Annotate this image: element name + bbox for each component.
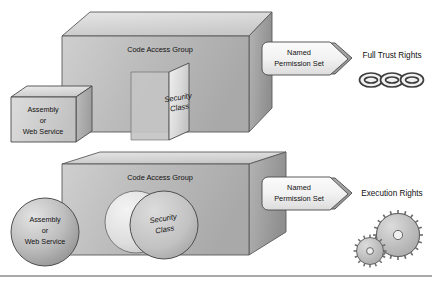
assembly-sphere-line-2: or	[42, 226, 49, 235]
named-permission-set-line-1-top: Named	[287, 48, 311, 57]
full-trust-row: Code Access Group Security Class Assembl…	[11, 12, 424, 142]
chain-icon	[360, 73, 424, 87]
code-access-group-label-bottom: Code Access Group	[127, 173, 193, 182]
assembly-cube-line-1: Assembly	[27, 105, 59, 114]
named-permission-set-arrow-top: Named Permission Set	[262, 42, 352, 75]
full-trust-rights-label: Full Trust Rights	[362, 51, 421, 60]
assembly-cube-line-2: or	[40, 116, 47, 125]
security-class-panel: Security Class	[131, 63, 195, 140]
assembly-cube-line-3: Web Service	[23, 127, 64, 136]
diagram-svg: Code Access Group Security Class Assembl…	[0, 0, 432, 283]
named-permission-set-line-1-bottom: Named	[287, 183, 311, 192]
code-access-group-label-top: Code Access Group	[127, 45, 193, 54]
assembly-cube: Assembly or Web Service	[11, 86, 92, 142]
diagram-canvas: Code Access Group Security Class Assembl…	[0, 0, 432, 283]
gear-small	[354, 235, 387, 268]
execution-row: Code Access Group Security Class Assembl…	[11, 152, 423, 268]
named-permission-set-line-2-top: Permission Set	[274, 59, 324, 68]
named-permission-set-arrow-bottom: Named Permission Set	[262, 177, 352, 210]
assembly-sphere: Assembly or Web Service	[11, 198, 79, 266]
assembly-sphere-line-3: Web Service	[25, 237, 66, 246]
gears-icon	[354, 210, 424, 268]
assembly-sphere-line-1: Assembly	[29, 215, 61, 224]
named-permission-set-line-2-bottom: Permission Set	[274, 194, 324, 203]
execution-rights-label: Execution Rights	[361, 189, 422, 198]
